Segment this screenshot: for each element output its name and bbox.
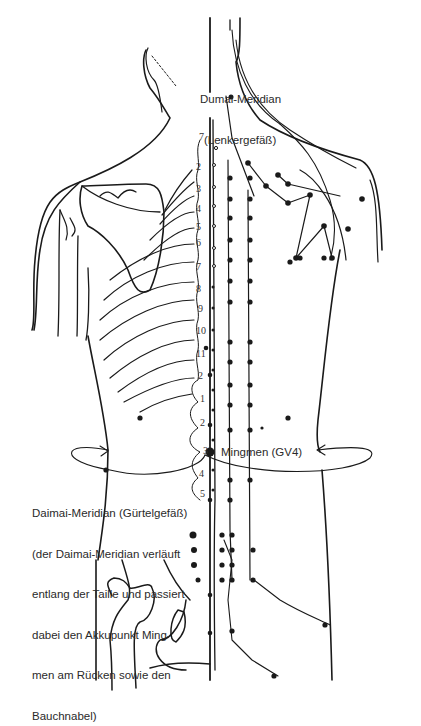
daimai-meridian-label: Daimai-Meridian (Gürtelgefäß) (der Daima… (32, 480, 187, 726)
vertebra-label-t6: 6 (196, 238, 201, 248)
mingmen-label: Mingmen (GV4) (221, 446, 302, 460)
vertebra-label-t11: 11 (196, 349, 206, 359)
daimai-label-line3: entlang der Taille und passiert (32, 588, 187, 602)
sacral-foramina (190, 532, 201, 583)
vertebra-label-t4: 4 (196, 204, 201, 214)
left-arm-outline (34, 182, 80, 330)
daimai-label-line1: Daimai-Meridian (Gürtelgefäß) (32, 507, 187, 521)
vertebra-label-t9: 9 (198, 304, 203, 314)
vertebra-label-l5: 5 (200, 489, 205, 499)
bladder-inner-line (228, 160, 232, 580)
daimai-label-line2: (der Daimai-Meridian verläuft (32, 548, 187, 562)
vertebra-label-l3: 3 (203, 446, 208, 456)
vertebra-label-t5: 5 (196, 222, 201, 232)
dumai-meridian-label: Dumai-Meridian (Lenkergefäß) (200, 66, 281, 174)
daimai-label-line6: Bauchnabel) (32, 710, 187, 724)
daimai-label-line4: dabei den Akkupunkt Ming- (32, 629, 187, 643)
midline-right (213, 120, 215, 670)
head-neck-outline (32, 50, 170, 330)
daimai-label-line5: men am Rücken sowie den (32, 669, 187, 683)
dumai-label-line1: Dumai-Meridian (200, 93, 281, 107)
vertebra-label-l1: 1 (200, 394, 205, 404)
vertebra-label-t7: 7 (196, 262, 201, 272)
vertebra-label-l2: 2 (200, 418, 205, 428)
vertebra-label-t10: 10 (196, 326, 206, 336)
vertebra-label-t3: 3 (196, 184, 201, 194)
ribs (100, 170, 194, 412)
vertebra-label-l4: 4 (199, 469, 204, 479)
vertebra-label-t8: 8 (196, 284, 201, 294)
dumai-label-line2: (Lenkergefäß) (200, 134, 281, 148)
vertebra-label-t12: 2 (198, 371, 203, 381)
daimai-belt-loop (72, 447, 206, 474)
